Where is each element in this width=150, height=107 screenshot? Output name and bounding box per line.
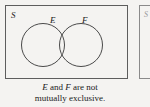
- secondary-sample-space-label: S: [144, 11, 148, 19]
- sample-space-box: S E F: [5, 5, 128, 79]
- figure-caption: E and F are not mutually exclusive.: [0, 82, 140, 104]
- venn-diagram-figure: S E F S E and F are not mutually exclusi…: [0, 0, 150, 107]
- secondary-sample-space-box: S: [139, 5, 150, 79]
- caption-conjunction: and: [48, 82, 66, 92]
- set-circle-f: [59, 23, 103, 67]
- sample-space-label: S: [11, 11, 16, 20]
- set-label-f: F: [82, 16, 88, 25]
- caption-line1-tail: are not: [71, 82, 98, 92]
- caption-line-1: E and F are not: [0, 82, 140, 93]
- set-label-e: E: [50, 16, 56, 25]
- caption-line-2: mutually exclusive.: [0, 93, 140, 104]
